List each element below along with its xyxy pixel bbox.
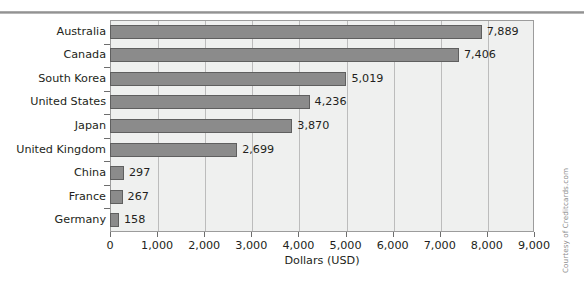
- category-label: Canada: [8, 49, 106, 61]
- y-axis-tick: [104, 138, 110, 139]
- x-axis-tick-label: 0: [106, 240, 113, 252]
- bar: [110, 190, 123, 204]
- x-axis-tick-label: 1,000: [141, 240, 173, 252]
- bar-value-label: 158: [124, 214, 145, 226]
- category-label: United States: [8, 96, 106, 108]
- x-axis-tick: [393, 232, 394, 237]
- y-axis-tick: [104, 67, 110, 68]
- x-axis-tick: [204, 232, 205, 237]
- category-label: China: [8, 167, 106, 179]
- category-axis-labels: AustraliaCanadaSouth KoreaUnited StatesJ…: [0, 0, 106, 282]
- x-axis-tick: [110, 232, 111, 237]
- bar-value-label: 7,889: [487, 26, 519, 38]
- bar-chart: AustraliaCanadaSouth KoreaUnited StatesJ…: [0, 0, 584, 282]
- x-axis-tick-label: 9,000: [518, 240, 550, 252]
- bar: [110, 95, 310, 109]
- x-axis-tick-label: 3,000: [235, 240, 267, 252]
- y-axis-tick: [104, 185, 110, 186]
- x-axis-tick-label: 8,000: [471, 240, 503, 252]
- x-axis-tick: [440, 232, 441, 237]
- bar: [110, 25, 482, 39]
- bar-value-label: 297: [129, 167, 150, 179]
- x-axis-tick-label: 5,000: [330, 240, 362, 252]
- y-axis-tick: [104, 91, 110, 92]
- x-axis-tick: [346, 232, 347, 237]
- bar-value-label: 2,699: [242, 144, 274, 156]
- category-label: South Korea: [8, 73, 106, 85]
- bar: [110, 119, 292, 133]
- x-axis-title: Dollars (USD): [110, 254, 534, 267]
- x-axis-tick: [487, 232, 488, 237]
- bar-value-label: 7,406: [464, 49, 496, 61]
- category-label: Germany: [8, 214, 106, 226]
- y-axis-tick: [104, 44, 110, 45]
- x-axis-tick: [251, 232, 252, 237]
- credit-attribution: Courtesy of Creditcards.com: [561, 168, 570, 273]
- category-label: Japan: [8, 120, 106, 132]
- category-label: France: [8, 191, 106, 203]
- x-axis-tick-label: 7,000: [424, 240, 456, 252]
- bar-value-label: 267: [128, 191, 149, 203]
- x-axis-tick-label: 4,000: [282, 240, 314, 252]
- x-axis-tick-label: 2,000: [188, 240, 220, 252]
- y-axis-tick: [104, 114, 110, 115]
- y-axis-tick: [104, 208, 110, 209]
- bar: [110, 143, 237, 157]
- bar-value-label: 3,870: [297, 120, 329, 132]
- x-axis-tick: [534, 232, 535, 237]
- category-label: Australia: [8, 26, 106, 38]
- x-axis-tick: [157, 232, 158, 237]
- bar-value-label: 5,019: [351, 73, 383, 85]
- bar-value-label: 4,236: [315, 96, 347, 108]
- bar: [110, 166, 124, 180]
- category-label: United Kingdom: [8, 144, 106, 156]
- bar: [110, 48, 459, 62]
- x-axis-tick-label: 6,000: [377, 240, 409, 252]
- bar: [110, 213, 119, 227]
- bar: [110, 72, 346, 86]
- y-axis-tick: [104, 161, 110, 162]
- x-axis-tick: [298, 232, 299, 237]
